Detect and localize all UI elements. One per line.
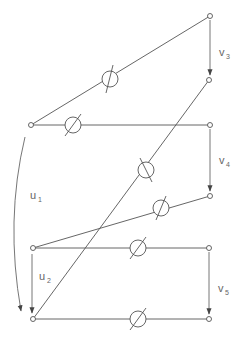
wire-long-diagonal bbox=[33, 80, 209, 319]
svg-text:v: v bbox=[219, 154, 225, 166]
label-v5: v 5 bbox=[218, 282, 229, 296]
arrow-u1 bbox=[14, 137, 25, 311]
node bbox=[207, 317, 212, 322]
node bbox=[31, 317, 36, 322]
nodes bbox=[29, 14, 213, 322]
svg-text:v: v bbox=[218, 282, 224, 294]
svg-text:v: v bbox=[219, 46, 225, 58]
svg-text:u: u bbox=[39, 270, 45, 282]
phase-shifter-network-diagram: v 3 v 4 v 5 u 1 u 2 bbox=[0, 0, 244, 342]
phase-shifter-icon bbox=[102, 65, 118, 93]
wires bbox=[31, 16, 210, 319]
phase-shifters bbox=[65, 65, 169, 330]
svg-text:5: 5 bbox=[225, 289, 229, 296]
label-v4: v 4 bbox=[219, 154, 230, 168]
node bbox=[208, 194, 213, 199]
phase-shifter-icon bbox=[65, 114, 81, 136]
phase-shifter-icon bbox=[130, 308, 146, 330]
phase-shifter-icon bbox=[138, 158, 154, 182]
node bbox=[207, 78, 212, 83]
phase-shifter-icon bbox=[130, 237, 146, 259]
svg-text:3: 3 bbox=[226, 53, 230, 60]
label-u1: u 1 bbox=[30, 189, 42, 203]
label-u2: u 2 bbox=[39, 270, 51, 284]
wire-low-slope bbox=[33, 196, 210, 248]
svg-text:4: 4 bbox=[226, 161, 230, 168]
node bbox=[29, 123, 34, 128]
node bbox=[31, 246, 36, 251]
svg-text:2: 2 bbox=[47, 277, 51, 284]
node bbox=[208, 123, 213, 128]
label-v3: v 3 bbox=[219, 46, 230, 60]
phase-shifter-icon bbox=[153, 196, 169, 220]
node bbox=[208, 14, 213, 19]
wire-top-diagonal bbox=[31, 16, 210, 125]
svg-text:u: u bbox=[30, 189, 36, 201]
svg-text:1: 1 bbox=[38, 196, 42, 203]
node bbox=[207, 246, 212, 251]
